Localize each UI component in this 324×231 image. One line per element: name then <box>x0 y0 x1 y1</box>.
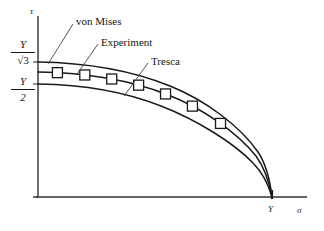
curves-group <box>38 62 272 197</box>
y-tick-lower-fraction-bar <box>11 89 35 90</box>
y-tick-label-lower: Y 2 <box>11 76 35 103</box>
experiment-data-marker <box>161 89 171 99</box>
curve-experiment <box>38 72 272 197</box>
yield-locus-figure: τ σ Y Y √3 Y 2 von Mises Experiment Tres… <box>0 0 324 231</box>
y-axis-symbol-tau: τ <box>30 7 33 16</box>
experiment-data-marker <box>216 118 226 128</box>
label-tresca: Tresca <box>151 56 180 67</box>
x-axis-symbol-sigma: σ <box>297 206 301 215</box>
plot-canvas <box>0 0 324 231</box>
leader-tresca <box>124 63 148 96</box>
leader-von-mises <box>48 24 73 64</box>
y-tick-lower-denominator: 2 <box>11 91 35 104</box>
curve-von-mises <box>38 62 272 197</box>
experiment-data-marker <box>107 74 117 84</box>
experiment-data-marker <box>52 68 62 78</box>
curve-tresca <box>38 84 272 197</box>
y-tick-lower-numerator: Y <box>11 76 35 89</box>
experiment-data-marker <box>187 101 197 111</box>
y-tick-upper-fraction-bar <box>11 52 35 53</box>
y-tick-upper-denominator: √3 <box>11 54 35 67</box>
experiment-data-marker <box>134 80 144 90</box>
y-tick-label-upper: Y √3 <box>11 39 35 66</box>
axes-group <box>33 16 307 199</box>
y-tick-upper-numerator: Y <box>11 39 35 52</box>
label-experiment: Experiment <box>101 37 152 48</box>
label-von-mises: von Mises <box>76 16 122 27</box>
x-tick-label-Y: Y <box>268 205 273 214</box>
experiment-data-marker <box>80 70 90 80</box>
